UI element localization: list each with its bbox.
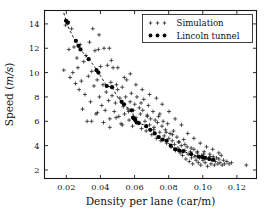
simulation-point	[133, 102, 137, 106]
x-tick-label: 0.10	[194, 182, 212, 192]
lincoln-tunnel-point	[196, 154, 200, 158]
legend-marker-circle-icon	[149, 34, 153, 38]
simulation-point	[100, 103, 104, 107]
lincoln-tunnel-point	[211, 158, 215, 162]
simulation-point	[72, 45, 76, 49]
y-tick-label: 6	[34, 116, 39, 126]
simulation-point	[107, 46, 111, 50]
simulation-point	[160, 124, 164, 128]
lincoln-tunnel-point	[110, 85, 114, 89]
simulation-point	[104, 90, 108, 94]
simulation-point	[149, 117, 153, 121]
simulation-point	[71, 71, 75, 75]
simulation-point	[140, 127, 144, 131]
y-axis-label: Speed (m/s)	[3, 63, 15, 127]
lincoln-tunnel-point	[122, 102, 126, 106]
scatter-plot-svg: 0.020.040.060.080.100.12Density per lane…	[0, 0, 272, 221]
simulation-point	[205, 145, 209, 149]
legend-marker-circle-icon	[163, 34, 167, 38]
simulation-point	[127, 118, 131, 122]
simulation-point	[139, 101, 143, 105]
simulation-point	[128, 100, 132, 104]
simulation-point	[179, 123, 183, 127]
lincoln-tunnel-point	[129, 108, 133, 112]
simulation-point	[116, 66, 120, 70]
simulation-point	[171, 129, 175, 133]
simulation-point	[225, 159, 229, 163]
simulation-point	[158, 130, 162, 134]
simulation-point	[221, 158, 225, 162]
lincoln-tunnel-point	[177, 148, 181, 152]
simulation-point	[75, 56, 79, 60]
simulation-point	[135, 95, 139, 99]
simulation-point	[116, 88, 120, 92]
lincoln-tunnel-point	[153, 131, 157, 135]
simulation-point	[77, 88, 81, 92]
lincoln-tunnel-point	[181, 149, 185, 153]
simulation-point	[122, 112, 126, 116]
simulation-point	[91, 27, 95, 31]
simulation-point	[160, 102, 164, 106]
lincoln-tunnel-point	[189, 152, 193, 156]
simulation-point	[90, 119, 94, 123]
simulation-point	[212, 163, 216, 167]
simulation-point	[93, 49, 97, 53]
simulation-point	[76, 66, 80, 70]
x-tick-label: 0.06	[125, 182, 143, 192]
x-axis-label: Density per lane (car/m)	[86, 195, 216, 207]
simulation-point	[97, 33, 101, 37]
simulation-point	[134, 83, 138, 87]
legend-label: Simulation	[177, 18, 225, 28]
simulation-point	[86, 74, 90, 78]
lincoln-tunnel-point	[137, 121, 141, 125]
lincoln-tunnel-point	[144, 124, 148, 128]
simulation-point	[74, 82, 78, 86]
lincoln-tunnel-point	[96, 70, 100, 74]
simulation-point	[141, 108, 145, 112]
simulation-point	[70, 27, 74, 31]
simulation-point	[144, 129, 148, 133]
lincoln-tunnel-point	[105, 84, 109, 88]
simulation-point	[166, 122, 170, 126]
lincoln-tunnel-point	[207, 157, 211, 161]
simulation-point	[128, 72, 132, 76]
simulation-point	[83, 93, 87, 97]
simulation-point	[196, 161, 200, 165]
simulation-point	[184, 157, 188, 161]
simulation-point	[112, 110, 116, 114]
simulation-point	[177, 140, 181, 144]
simulation-point	[129, 91, 133, 95]
simulation-point	[154, 96, 158, 100]
simulation-point	[172, 142, 176, 146]
y-tick-label: 8	[34, 92, 39, 102]
x-tick-label: 0.04	[91, 182, 109, 192]
y-axis-label-prefix: Speed (	[3, 86, 15, 127]
simulation-point	[155, 121, 159, 125]
simulation-point	[68, 75, 72, 79]
simulation-point	[109, 80, 113, 84]
y-tick-label: 14	[29, 19, 39, 29]
simulation-point	[79, 79, 83, 83]
simulation-point	[89, 100, 93, 104]
simulation-point	[125, 78, 129, 82]
simulation-point	[140, 88, 144, 92]
simulation-point	[203, 161, 207, 165]
y-axis-label-suffix: )	[3, 63, 15, 67]
legend-label: Lincoln tunnel	[177, 31, 240, 41]
simulation-point	[180, 153, 184, 157]
simulation-point	[99, 65, 103, 69]
lincoln-tunnel-point	[165, 139, 169, 143]
simulation-point	[97, 95, 101, 99]
simulation-point	[217, 151, 221, 155]
lincoln-tunnel-point	[157, 135, 161, 139]
simulation-point	[109, 58, 113, 62]
simulation-point	[118, 96, 122, 100]
simulation-point	[105, 63, 109, 67]
simulation-point	[173, 117, 177, 121]
lincoln-tunnel-point	[74, 39, 78, 43]
y-tick-label: 2	[34, 165, 39, 175]
lincoln-tunnel-point	[203, 156, 207, 160]
simulation-point	[179, 144, 183, 148]
simulation-point	[108, 125, 112, 129]
simulation-point	[67, 47, 71, 51]
